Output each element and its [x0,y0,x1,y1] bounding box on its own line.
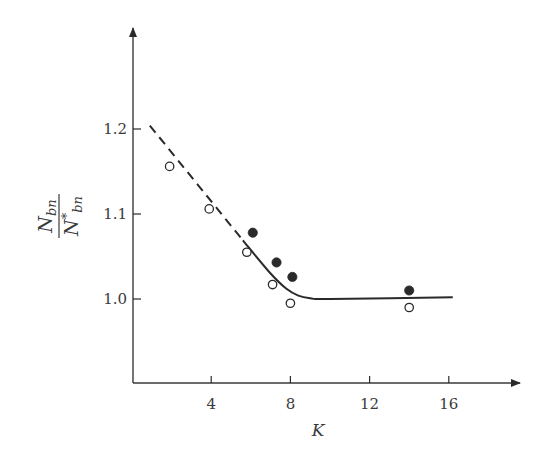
open-circle-marker [165,162,173,170]
y-label-denominator: N*bn [59,196,85,237]
open-circle-marker [286,299,294,307]
open-circle-marker [205,205,213,213]
y-label-numerator-base: N [34,215,56,234]
data-markers [165,162,413,311]
open-circle-marker [405,303,413,311]
y-label-numerator-sub: bn [44,199,59,216]
solid-fit-curve [243,240,453,299]
x-tick-label: 8 [286,395,296,413]
filled-circle-marker [248,228,257,237]
dashed-trend-line [150,126,243,241]
y-tick-label: 1.0 [103,290,127,308]
plot-lines [150,126,453,299]
x-axis-title: K [311,420,326,440]
y-tick-label: 1.1 [103,205,127,223]
y-label-numerator: Nbn [34,199,59,233]
axes [133,28,520,383]
x-tick-label: 16 [439,395,458,413]
y-ticks: 1.01.11.2 [103,120,141,308]
chart: 481216 1.01.11.2 K Nbn N*bn [0,0,544,458]
filled-circle-marker [272,258,281,267]
x-tick-label: 12 [360,395,379,413]
open-circle-marker [243,248,251,256]
open-circle-marker [268,280,276,288]
x-tick-label: 4 [206,395,216,413]
y-axis-title: Nbn N*bn [34,194,85,238]
x-ticks: 481216 [206,376,458,413]
filled-circle-marker [288,272,297,281]
y-label-denominator-base: N [60,218,82,237]
y-tick-label: 1.2 [103,120,127,138]
y-label-denominator-sub: bn [70,196,85,213]
filled-circle-marker [405,286,414,295]
